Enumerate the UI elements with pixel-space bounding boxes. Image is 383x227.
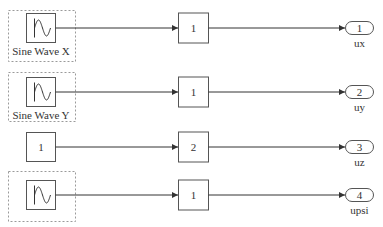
sine-wave-block[interactable] xyxy=(27,14,56,43)
block-diagram-canvas: Sine Wave X11uxSine Wave Y12uy123uz14ups… xyxy=(0,0,383,227)
gain-block[interactable]: 1 xyxy=(179,13,209,43)
outport-number: 1 xyxy=(357,22,363,34)
outport-name: ux xyxy=(354,37,366,49)
sine-wave-block[interactable] xyxy=(27,78,56,107)
gain-value: 1 xyxy=(191,189,197,201)
outport-block[interactable]: 4 xyxy=(346,189,374,202)
constant-value: 1 xyxy=(38,141,44,153)
signal-row-4: 14upsi xyxy=(9,172,374,222)
constant-block[interactable]: 1 xyxy=(27,133,56,162)
signal-row-3: 123uz xyxy=(27,132,374,168)
signal-row-1: Sine Wave X11ux xyxy=(9,11,374,62)
gain-value: 1 xyxy=(191,22,197,34)
outport-name: uz xyxy=(354,156,365,168)
outport-number: 2 xyxy=(357,86,363,98)
source-block-label: Sine Wave X xyxy=(12,45,70,57)
outport-block[interactable]: 1 xyxy=(346,22,374,35)
gain-block[interactable]: 1 xyxy=(179,77,209,107)
outport-block[interactable]: 2 xyxy=(346,86,374,99)
gain-block[interactable]: 2 xyxy=(179,132,209,162)
signal-row-2: Sine Wave Y12uy xyxy=(9,73,374,122)
outport-number: 3 xyxy=(357,141,363,153)
outport-name: upsi xyxy=(350,204,368,216)
outport-number: 4 xyxy=(357,189,363,201)
gain-block[interactable]: 1 xyxy=(179,180,209,210)
gain-value: 1 xyxy=(191,86,197,98)
outport-block[interactable]: 3 xyxy=(346,141,374,154)
gain-value: 2 xyxy=(191,141,197,153)
source-block-label: Sine Wave Y xyxy=(12,109,69,121)
sine-wave-block[interactable] xyxy=(27,181,56,210)
outport-name: uy xyxy=(354,101,366,113)
